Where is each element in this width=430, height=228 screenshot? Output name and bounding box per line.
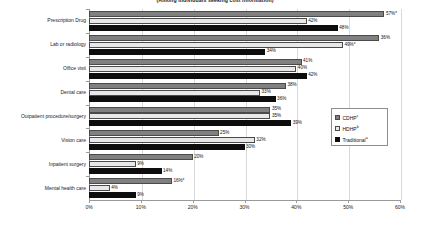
bar-value-label: 48% xyxy=(339,25,348,31)
legend-item-cdhp[interactable]: CDHPc xyxy=(335,112,387,123)
bar-value-label: 16%* xyxy=(173,178,184,184)
y-tick-mark xyxy=(86,152,89,153)
bar[interactable] xyxy=(89,185,110,191)
bar[interactable] xyxy=(89,90,260,96)
x-tick-label: 60% xyxy=(395,204,405,210)
bar-value-label: 49%* xyxy=(344,42,355,48)
bar-value-label: 33% xyxy=(262,89,271,95)
bar-value-label: 32% xyxy=(256,137,265,143)
y-axis-label: Office visit xyxy=(63,65,86,71)
y-axis-label: Lab or radiology xyxy=(50,41,86,47)
y-axis-label: Inpatient surgery xyxy=(49,161,86,167)
y-axis-label: Dental care xyxy=(60,89,86,95)
bar-value-label: 20% xyxy=(194,154,203,160)
bar[interactable] xyxy=(89,107,270,113)
bar[interactable] xyxy=(89,35,379,41)
x-tick-mark xyxy=(89,200,90,203)
x-tick-mark xyxy=(193,200,194,203)
bar-value-label: 35% xyxy=(272,106,281,112)
y-tick-mark xyxy=(86,9,89,10)
bar[interactable] xyxy=(89,73,307,79)
legend-item-traditional[interactable]: Traditionala xyxy=(335,134,387,145)
bar[interactable] xyxy=(89,137,255,143)
bar-value-label: 30% xyxy=(246,144,255,150)
y-axis-label: Outpatient procedure/surgery xyxy=(21,113,86,119)
y-tick-mark xyxy=(86,33,89,34)
bar[interactable] xyxy=(89,113,270,119)
bar-value-label: 36% xyxy=(277,96,286,102)
bar-value-label: 41% xyxy=(303,58,312,64)
bar-value-label: 9% xyxy=(137,161,144,167)
legend-label-cdhp: CDHPc xyxy=(343,114,359,121)
legend-swatch-traditional xyxy=(335,137,340,142)
y-tick-mark xyxy=(86,57,89,58)
legend-label-hdhp: HDHPb xyxy=(343,125,359,132)
legend-label-traditional: Traditionala xyxy=(343,136,368,143)
bar-value-label: 14% xyxy=(163,168,172,174)
y-axis-label: Vision care xyxy=(61,137,86,143)
bar-value-label: 42% xyxy=(308,72,317,78)
bar[interactable] xyxy=(89,18,307,24)
bar-value-label: 34% xyxy=(267,48,276,54)
x-tick-mark xyxy=(141,200,142,203)
y-tick-mark xyxy=(86,176,89,177)
x-tick-mark xyxy=(348,200,349,203)
x-tick-label: 20% xyxy=(188,204,198,210)
bar-value-label: 4% xyxy=(111,185,118,191)
x-tick-label: 40% xyxy=(291,204,301,210)
bar[interactable] xyxy=(89,96,276,102)
bar-value-label: 36% xyxy=(381,35,390,41)
legend-item-hdhp[interactable]: HDHPb xyxy=(335,123,387,134)
chart-legend: CDHPc HDHPb Traditionala xyxy=(331,108,388,146)
bar-value-label: 42% xyxy=(308,18,317,24)
bar-value-label: 38% xyxy=(287,82,296,88)
bar-value-label: 57%* xyxy=(386,11,397,17)
y-axis-label: Mental health care xyxy=(45,185,86,191)
bar[interactable] xyxy=(89,66,296,72)
bar[interactable] xyxy=(89,83,286,89)
bar[interactable] xyxy=(89,154,193,160)
bar[interactable] xyxy=(89,144,245,150)
bar[interactable] xyxy=(89,120,291,126)
gridline xyxy=(401,9,402,200)
bar[interactable] xyxy=(89,168,162,174)
bar[interactable] xyxy=(89,42,343,48)
y-tick-mark xyxy=(86,128,89,129)
bar[interactable] xyxy=(89,11,384,17)
x-tick-label: 50% xyxy=(343,204,353,210)
x-tick-label: 10% xyxy=(136,204,146,210)
legend-swatch-cdhp xyxy=(335,115,340,120)
bar-value-label: 39% xyxy=(293,120,302,126)
bar-value-label: 35% xyxy=(272,113,281,119)
chart-title: (Among individuals seeking cost informat… xyxy=(0,0,430,3)
x-tick-label: 0% xyxy=(85,204,92,210)
bar-value-label: 25% xyxy=(220,130,229,136)
y-tick-mark xyxy=(86,81,89,82)
bar[interactable] xyxy=(89,130,219,136)
bar[interactable] xyxy=(89,25,338,31)
legend-swatch-hdhp xyxy=(335,126,340,131)
bar[interactable] xyxy=(89,49,265,55)
bar[interactable] xyxy=(89,178,172,184)
bar-value-label: 9% xyxy=(137,192,144,198)
x-tick-label: 30% xyxy=(239,204,249,210)
y-axis-label: Prescription Drug xyxy=(47,17,86,23)
bar[interactable] xyxy=(89,192,136,198)
x-tick-mark xyxy=(296,200,297,203)
x-tick-mark xyxy=(245,200,246,203)
bar-value-label: 40% xyxy=(298,65,307,71)
y-tick-mark xyxy=(86,105,89,106)
x-tick-mark xyxy=(400,200,401,203)
bar[interactable] xyxy=(89,59,302,65)
bar-chart: (Among individuals seeking cost informat… xyxy=(0,0,430,228)
bar[interactable] xyxy=(89,161,136,167)
